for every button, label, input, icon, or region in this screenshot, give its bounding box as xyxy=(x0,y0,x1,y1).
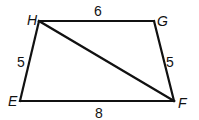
side-label-hg: 6 xyxy=(94,3,102,19)
vertex-label-g: G xyxy=(157,13,168,29)
diagonal-hf xyxy=(39,21,174,101)
vertex-label-f: F xyxy=(178,95,188,111)
side-label-eh: 5 xyxy=(17,54,25,70)
vertex-label-e: E xyxy=(8,93,18,109)
trapezoid-edges xyxy=(20,21,174,101)
trapezoid-diagram: H G F E 6 5 8 5 xyxy=(0,0,199,120)
vertex-label-h: H xyxy=(27,12,38,28)
side-label-gf: 5 xyxy=(166,54,174,70)
side-label-fe: 8 xyxy=(95,105,103,120)
